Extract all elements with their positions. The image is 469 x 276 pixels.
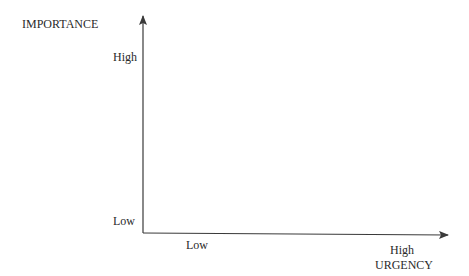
x-axis-title: URGENCY [375, 258, 433, 272]
y-axis-low-label: Low [113, 214, 135, 228]
x-axis-high-label: High [390, 243, 414, 257]
axes-canvas [0, 0, 469, 276]
x-axis-line [143, 233, 448, 235]
x-axis-low-label: Low [186, 238, 208, 252]
y-axis-title: IMPORTANCE [22, 17, 98, 31]
y-axis-high-label: High [113, 50, 137, 64]
